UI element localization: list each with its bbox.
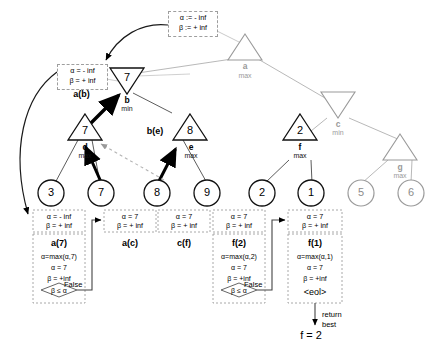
f2-alpha-new: α = 7 xyxy=(213,264,265,271)
node-g-sublabel: max xyxy=(393,172,406,179)
init-box: α := - inf β := + inf xyxy=(168,11,218,37)
node-a-label: a xyxy=(243,62,248,71)
f2-beta: β = + inf xyxy=(213,222,265,230)
final-result: f = 2 xyxy=(300,330,322,342)
node-e-label: e xyxy=(189,143,194,152)
ab-beta: β = + inf xyxy=(58,77,107,85)
cf-title: c(f) xyxy=(158,239,210,248)
leader-init-box xyxy=(215,30,243,44)
node-b-label: b xyxy=(124,96,129,105)
dashed-link-e-to-d xyxy=(101,144,164,180)
node-g-shape xyxy=(383,134,417,160)
node-f-value: 2 xyxy=(297,125,303,137)
f2-title: f(2) xyxy=(213,239,265,248)
node-g-label: g xyxy=(397,163,402,172)
node-d-sublabel: max xyxy=(78,152,91,159)
a7-alpha-new: α = 7 xyxy=(33,264,85,271)
ab-box: α = - inf β = + inf xyxy=(57,64,108,90)
node-b-sublabel: min xyxy=(121,105,132,112)
return-note-line2: best xyxy=(322,321,336,329)
f1-update: α=max(α,1) xyxy=(286,253,344,260)
leaf-value: 5 xyxy=(358,187,364,199)
leaf-circles xyxy=(38,180,424,206)
leaf-value: 9 xyxy=(204,187,210,199)
diagram-vector-layer xyxy=(0,0,444,361)
a7-alpha: α = - inf xyxy=(33,213,85,221)
arrow-leaf8-to-e xyxy=(158,150,175,183)
f1-beta-new: β = +inf xyxy=(288,275,342,282)
ab-alpha: α = - inf xyxy=(58,67,107,75)
f2-update: α=max(α,2) xyxy=(211,253,267,260)
ac-title: a(c) xyxy=(104,239,156,248)
ab-box-label: a(b) xyxy=(57,90,106,99)
flow-connectors xyxy=(77,220,315,325)
f2-test-result: False xyxy=(244,281,262,289)
be-label: b(e) xyxy=(140,127,170,136)
init-beta: β := + inf xyxy=(169,24,217,32)
f1-alpha-new: α = 7 xyxy=(288,264,342,271)
a7-beta: β = + inf xyxy=(33,222,85,230)
ac-alpha: α = 7 xyxy=(104,213,156,221)
node-f-sublabel: max xyxy=(293,152,306,159)
cf-alpha: α = 7 xyxy=(158,213,210,221)
leaf-value: 6 xyxy=(408,187,414,199)
leaf-value: 1 xyxy=(308,187,314,199)
node-b-value: 7 xyxy=(124,72,130,84)
cf-beta: β = + inf xyxy=(158,222,210,230)
a7-update: α=max(α,7) xyxy=(31,253,87,260)
f2-alpha: α = 7 xyxy=(213,213,265,221)
leaf-value: 7 xyxy=(98,187,104,199)
f1-beta: β = + inf xyxy=(288,222,342,230)
node-d-label: d xyxy=(82,143,87,152)
return-note-line1: return xyxy=(322,311,342,319)
node-c-shape xyxy=(321,92,355,118)
leaf-value: 2 xyxy=(259,187,265,199)
node-d-value: 7 xyxy=(82,125,88,137)
arrow-init-to-ab xyxy=(106,25,168,60)
a7-title: a(7) xyxy=(33,239,85,248)
f1-eol: <eol> xyxy=(288,288,342,297)
tree-edges-gray xyxy=(131,59,412,183)
init-alpha: α := - inf xyxy=(169,14,217,22)
leaf-value: 8 xyxy=(154,187,160,199)
node-a-sublabel: max xyxy=(238,72,251,79)
node-c-sublabel: min xyxy=(332,129,343,136)
f1-title: f(1) xyxy=(288,239,342,248)
node-e-value: 8 xyxy=(187,125,193,137)
node-e-sublabel: max xyxy=(184,152,197,159)
f1-alpha: α = 7 xyxy=(288,213,342,221)
node-f-label: f xyxy=(299,143,302,152)
diagram-canvas: α := - inf β := + inf α = - inf β = + in… xyxy=(0,0,444,361)
leader-b-box xyxy=(137,74,190,76)
node-c-label: c xyxy=(336,120,341,129)
leaf-value: 3 xyxy=(48,187,54,199)
a7-test-result: False xyxy=(64,281,82,289)
node-a-shape xyxy=(228,34,262,60)
ac-beta: β = + inf xyxy=(104,222,156,230)
